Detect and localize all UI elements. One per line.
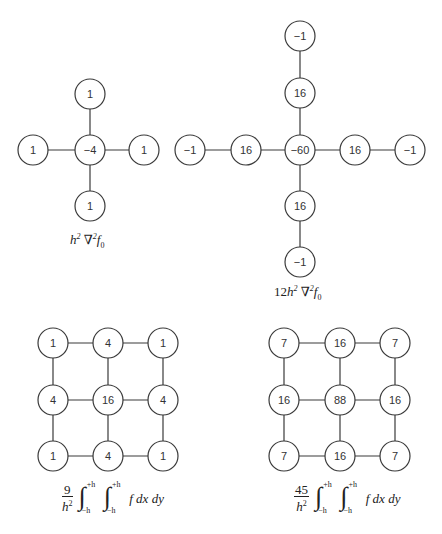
integral-upper-limit: +h [349, 480, 358, 489]
integral-sign-outer: ∫+h−h [79, 482, 101, 516]
stencil-node: 16 [285, 78, 315, 108]
integrand: f dx dy [129, 491, 164, 506]
node-value: 7 [281, 337, 287, 349]
node-value: 1 [160, 337, 166, 349]
fraction-numerator: 45 [294, 483, 309, 497]
node-value: 16 [240, 144, 252, 156]
node-value: −4 [84, 144, 97, 156]
integrand: f dx dy [366, 491, 401, 506]
label-h-power: 2 [77, 232, 81, 241]
integral-sign-outer: ∫+h−h [315, 482, 337, 516]
stencil-node: −1 [175, 135, 205, 165]
grid-2-formula: 45 h2 ∫+h−h ∫+h−h f dx dy [294, 482, 400, 516]
stencil-node: 7 [380, 441, 410, 471]
stencil-2-label: 12h2 ∇2f0 [274, 284, 321, 302]
node-value: −1 [294, 256, 307, 268]
den-power: 2 [69, 499, 73, 508]
fraction-denominator: h2 [62, 497, 73, 514]
node-value: 4 [50, 394, 56, 406]
stencil-node: −4 [75, 135, 105, 165]
nabla-symbol: ∇ [301, 284, 310, 299]
node-value: 16 [102, 394, 114, 406]
fraction: 45 h2 [294, 483, 309, 514]
grid-1-formula: 9 h2 ∫+h−h ∫+h−h f dx dy [62, 482, 164, 516]
node-value: 1 [30, 144, 36, 156]
stencil-node: 1 [75, 79, 105, 109]
stencil-node: 7 [380, 328, 410, 358]
node-value: −60 [291, 144, 310, 156]
stencil-node: 7 [269, 441, 299, 471]
stencil-node: 16 [340, 135, 370, 165]
integral-lower-limit: −h [318, 506, 327, 515]
node-value: 7 [281, 450, 287, 462]
stencil-node: 1 [38, 328, 68, 358]
stencil-node: 88 [325, 385, 355, 415]
stencil-node: 1 [75, 191, 105, 221]
node-value: 16 [349, 144, 361, 156]
stencil-node: −60 [285, 135, 315, 165]
node-value: 1 [87, 88, 93, 100]
label-h-power: 2 [294, 284, 298, 293]
den-power: 2 [303, 499, 307, 508]
stencil-node: 7 [269, 328, 299, 358]
node-value: 16 [294, 87, 306, 99]
label-coefficient: 12 [274, 284, 287, 299]
stencil-node: 4 [93, 328, 123, 358]
node-value: 16 [294, 200, 306, 212]
node-value: 4 [105, 337, 111, 349]
stencil-node: −1 [285, 247, 315, 277]
integral-upper-limit: +h [323, 480, 332, 489]
stencil-node: 16 [285, 191, 315, 221]
stencil-node: 1 [148, 328, 178, 358]
integral-sign-inner: ∫+h−h [104, 482, 126, 516]
integral-upper-limit: +h [87, 480, 96, 489]
node-value: 4 [160, 394, 166, 406]
node-value: −1 [184, 144, 197, 156]
stencil-node: 16 [231, 135, 261, 165]
stencil-node: 16 [325, 441, 355, 471]
node-value: 1 [141, 144, 147, 156]
node-value: 7 [392, 450, 398, 462]
node-value: 1 [50, 450, 56, 462]
integral-upper-limit: +h [112, 480, 121, 489]
stencil-node: 1 [18, 135, 48, 165]
nabla-symbol: ∇ [84, 232, 93, 247]
stencil-node: 16 [269, 385, 299, 415]
stencil-node: −1 [285, 21, 315, 51]
node-value: 4 [105, 450, 111, 462]
label-f-subscript: 0 [100, 241, 104, 250]
stencil-node: 16 [325, 328, 355, 358]
fraction-numerator: 9 [62, 483, 73, 497]
stencil-node: 1 [38, 441, 68, 471]
fraction: 9 h2 [62, 483, 73, 514]
node-value: 16 [278, 394, 290, 406]
stencil-node: 16 [380, 385, 410, 415]
node-value: −1 [294, 30, 307, 42]
node-value: 88 [334, 394, 346, 406]
stencil-node: 1 [148, 441, 178, 471]
node-value: 16 [334, 337, 346, 349]
integral-sign-inner: ∫+h−h [341, 482, 363, 516]
stencil-node: 1 [129, 135, 159, 165]
stencil-1-label: h2 ∇2f0 [70, 232, 104, 250]
label-f-subscript: 0 [317, 293, 321, 302]
stencil-node: −1 [395, 135, 425, 165]
integral-lower-limit: −h [344, 506, 353, 515]
node-value: 1 [87, 200, 93, 212]
stencil-node: 4 [38, 385, 68, 415]
node-value: 1 [50, 337, 56, 349]
node-value: 1 [160, 450, 166, 462]
node-value: −1 [404, 144, 417, 156]
node-value: 16 [334, 450, 346, 462]
integral-lower-limit: −h [82, 506, 91, 515]
fraction-denominator: h2 [294, 497, 309, 514]
stencil-node: 4 [93, 441, 123, 471]
node-value: 16 [389, 394, 401, 406]
stencil-node: 16 [93, 385, 123, 415]
stencil-node: 4 [148, 385, 178, 415]
stencil-diagram: 11−411−116−116−6016−116−1141416414171671… [0, 0, 442, 534]
integral-lower-limit: −h [107, 506, 116, 515]
node-value: 7 [392, 337, 398, 349]
